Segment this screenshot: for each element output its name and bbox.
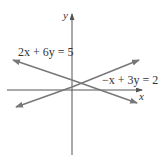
equation-label-1: 2x + 6y = 5	[18, 45, 74, 59]
y-axis-label: y	[62, 9, 68, 21]
coordinate-plane: y x 2x + 6y = 5 −x + 3y = 2	[0, 0, 162, 167]
x-axis-label: x	[138, 90, 144, 102]
equation-label-2: −x + 3y = 2	[102, 73, 158, 87]
line-2x-6y-5	[13, 60, 72, 80]
